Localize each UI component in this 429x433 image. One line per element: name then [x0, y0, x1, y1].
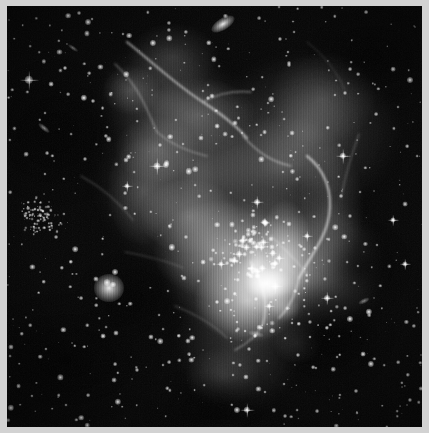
- star-point: [167, 360, 171, 364]
- star-point: [198, 418, 199, 419]
- star-point: [179, 307, 181, 309]
- star-point: [290, 194, 291, 195]
- star-point: [33, 200, 37, 204]
- star-point: [324, 295, 330, 301]
- star-point: [153, 127, 155, 129]
- star-point: [78, 289, 79, 290]
- star-point: [8, 276, 9, 277]
- star-point: [247, 60, 248, 61]
- star-point: [313, 261, 316, 264]
- star-point: [7, 419, 10, 423]
- star-point: [65, 52, 66, 53]
- star-point: [331, 367, 335, 371]
- star-point: [264, 281, 269, 286]
- star-point: [305, 403, 306, 404]
- star-point: [87, 71, 91, 75]
- star-point: [243, 374, 248, 379]
- star-point: [298, 231, 299, 232]
- star-point: [380, 307, 382, 309]
- star-point: [38, 206, 41, 209]
- star-point: [241, 339, 243, 341]
- star-point: [290, 169, 294, 173]
- star-point: [49, 208, 52, 211]
- star-point: [106, 126, 109, 129]
- star-point: [272, 93, 274, 95]
- star-point: [61, 61, 62, 62]
- star-point: [180, 267, 181, 268]
- star-point: [198, 135, 203, 140]
- star-point: [249, 314, 250, 315]
- star-point: [133, 171, 136, 174]
- star-point: [148, 334, 153, 339]
- star-point: [60, 92, 61, 93]
- star-point: [347, 82, 349, 84]
- star-point: [238, 271, 240, 273]
- star-point: [334, 423, 338, 427]
- star-point: [36, 230, 39, 233]
- star-point: [234, 407, 240, 413]
- star-point: [224, 287, 227, 290]
- star-point: [316, 401, 317, 402]
- star-point: [147, 76, 148, 77]
- star-point: [346, 261, 349, 264]
- star-point: [261, 72, 262, 73]
- star-point: [270, 251, 275, 256]
- star-point: [176, 151, 179, 154]
- star-point: [150, 40, 156, 46]
- star-point: [245, 68, 246, 69]
- star-point: [100, 54, 101, 55]
- star-point: [357, 92, 360, 95]
- star-point: [36, 331, 37, 332]
- star-point: [272, 186, 274, 188]
- star-point: [250, 212, 255, 217]
- star-point: [239, 261, 242, 264]
- star-point: [278, 37, 282, 41]
- star-point: [209, 189, 213, 193]
- star-point: [283, 414, 287, 418]
- star-point: [7, 96, 10, 100]
- star-point: [193, 167, 198, 172]
- star-point: [266, 230, 269, 233]
- star-point: [255, 372, 256, 373]
- star-point: [10, 96, 12, 98]
- star-point: [101, 334, 106, 339]
- star-point: [220, 285, 222, 287]
- star-point: [157, 314, 160, 317]
- star-point: [86, 393, 90, 397]
- star-point: [121, 405, 124, 408]
- star-point: [121, 33, 124, 36]
- star-point: [117, 74, 118, 75]
- star-point: [216, 238, 218, 240]
- star-point: [361, 352, 366, 357]
- star-point: [241, 219, 244, 222]
- star-point: [164, 415, 167, 418]
- star-point: [18, 127, 19, 128]
- star-point: [304, 233, 309, 238]
- star-point: [313, 246, 317, 250]
- star-point: [26, 68, 27, 69]
- star-point: [14, 29, 15, 30]
- star-point: [416, 154, 419, 157]
- star-point: [155, 213, 157, 215]
- star-point: [234, 328, 239, 333]
- star-point: [399, 405, 401, 407]
- star-point: [251, 184, 253, 186]
- star-point: [60, 29, 62, 31]
- star-point: [43, 172, 46, 175]
- star-point: [218, 210, 220, 212]
- star-point: [356, 140, 358, 142]
- star-point: [323, 335, 325, 337]
- star-point: [39, 271, 41, 273]
- star-point: [91, 99, 95, 103]
- star-point: [293, 289, 297, 293]
- star-point: [232, 362, 235, 365]
- star-point: [381, 404, 384, 407]
- star-point: [29, 14, 30, 15]
- star-point: [299, 254, 300, 255]
- star-point: [89, 127, 90, 128]
- star-point: [209, 257, 214, 262]
- star-point: [321, 354, 322, 355]
- star-point: [246, 232, 251, 237]
- star-point: [107, 314, 110, 317]
- star-point: [412, 324, 416, 328]
